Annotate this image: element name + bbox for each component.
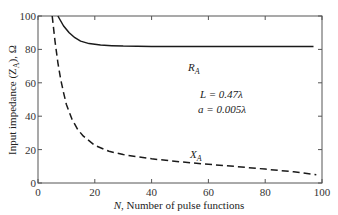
x-tick-label: 60 (203, 186, 215, 198)
y-tick-label: 20 (25, 144, 37, 156)
y-axis-label: Input impedance (ZA), Ω (6, 45, 21, 155)
series (52, 16, 316, 175)
impedance-chart: 020406080100020406080100 RA XA L = 0.47λ… (0, 0, 338, 215)
x-tick-label: 40 (146, 186, 158, 198)
x-axis-label: N, Number of pulse functions (113, 199, 244, 211)
y-tick-label: 80 (25, 43, 37, 55)
annotations: RA XA L = 0.47λ a = 0.005λ (187, 61, 246, 163)
param-radius: a = 0.005λ (198, 103, 246, 115)
series-x-a-line (52, 16, 316, 175)
series-r-a-line (58, 16, 314, 46)
y-tick-label: 100 (20, 10, 37, 22)
x-tick-label: 20 (89, 186, 101, 198)
param-length: L = 0.47λ (199, 88, 243, 100)
x-tick-label: 100 (314, 186, 331, 198)
xa-label: XA (189, 148, 202, 163)
y-tick-label: 0 (31, 177, 37, 189)
y-tick-label: 60 (25, 77, 37, 89)
x-tick-label: 80 (260, 186, 272, 198)
ra-label: RA (187, 61, 200, 76)
y-tick-label: 40 (25, 110, 37, 122)
x-tick-label: 0 (35, 186, 41, 198)
